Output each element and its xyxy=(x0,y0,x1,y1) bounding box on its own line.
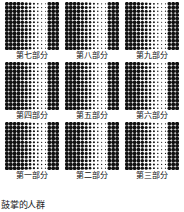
panel-label: 第七部分 xyxy=(16,50,47,61)
panel-part-nine: 第九部分 xyxy=(124,2,180,61)
panel-label: 第三部分 xyxy=(136,170,167,181)
panel-part-eight: 第八部分 xyxy=(64,2,120,61)
dot-matrix-chart xyxy=(5,122,59,170)
panel-part-one: 第一部分 xyxy=(4,122,60,181)
figure-caption: 鼓掌的人群 xyxy=(1,199,81,211)
panel-label: 第九部分 xyxy=(136,50,167,61)
dot-matrix-chart xyxy=(125,62,179,110)
panel-label: 第五部分 xyxy=(76,110,107,121)
panel-part-three: 第三部分 xyxy=(124,122,180,181)
panel-part-seven: 第七部分 xyxy=(4,2,60,61)
panel-label: 第四部分 xyxy=(16,110,47,121)
panel-label: 第六部分 xyxy=(136,110,167,121)
dot-matrix-chart xyxy=(5,62,59,110)
dot-matrix-chart xyxy=(125,2,179,50)
dot-matrix-chart xyxy=(125,122,179,170)
dot-matrix-chart xyxy=(65,2,119,50)
panel-grid: 第七部分 第八部分 第九部分 第四部分 第五部分 第六部分 xyxy=(4,2,180,181)
figure-container: 第七部分 第八部分 第九部分 第四部分 第五部分 第六部分 xyxy=(0,0,184,212)
panel-part-six: 第六部分 xyxy=(124,62,180,121)
panel-part-two: 第二部分 xyxy=(64,122,120,181)
panel-part-four: 第四部分 xyxy=(4,62,60,121)
panel-part-five: 第五部分 xyxy=(64,62,120,121)
panel-row-top: 第七部分 第八部分 第九部分 xyxy=(4,2,180,61)
dot-matrix-chart xyxy=(65,122,119,170)
dot-matrix-chart xyxy=(5,2,59,50)
panel-row-middle: 第四部分 第五部分 第六部分 xyxy=(4,62,180,121)
panel-row-bottom: 第一部分 第二部分 第三部分 xyxy=(4,122,180,181)
panel-label: 第八部分 xyxy=(76,50,107,61)
panel-label: 第二部分 xyxy=(76,170,107,181)
panel-label: 第一部分 xyxy=(16,170,47,181)
dot-matrix-chart xyxy=(65,62,119,110)
